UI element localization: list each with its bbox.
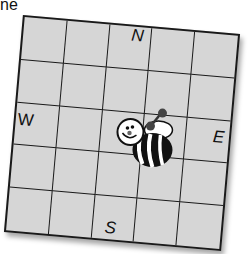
grid-cell: [177, 203, 223, 249]
cropped-heading-text: ne: [0, 0, 18, 14]
grid-cell: [6, 188, 52, 234]
grid-cell: [134, 199, 180, 245]
grid-cell: [103, 67, 149, 113]
bee-icon: [110, 108, 180, 172]
grid-cell: [56, 106, 102, 152]
grid-cell: [192, 32, 238, 78]
grid-cell: [21, 17, 67, 63]
grid-cell: [10, 145, 56, 191]
compass-grid: N W E S: [4, 15, 240, 251]
grid-cell: [17, 60, 63, 106]
grid-cell: [52, 149, 98, 195]
east-label: E: [212, 128, 225, 146]
grid-cell: [106, 25, 152, 71]
grid-cell: [60, 63, 106, 109]
grid-cell: [149, 28, 195, 74]
grid-cell: [49, 191, 95, 237]
west-label: W: [17, 111, 34, 129]
grid-cell: [180, 160, 226, 206]
south-label: S: [104, 219, 117, 237]
grid-cell: [64, 21, 110, 67]
grid-cell: [188, 75, 234, 121]
north-label: N: [131, 26, 145, 44]
